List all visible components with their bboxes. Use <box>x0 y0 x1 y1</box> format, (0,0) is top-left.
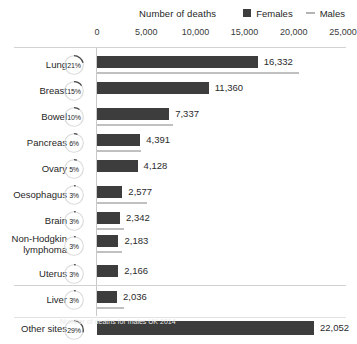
percentage-label: 3% <box>63 184 85 206</box>
bar-females <box>97 134 140 146</box>
chart-row: Bowel10%7,337 <box>0 104 357 130</box>
bar-females <box>97 186 122 198</box>
percentage-label: 5% <box>63 158 85 180</box>
category-label: Pancreas <box>27 138 67 149</box>
percentage-donut: 3% <box>63 184 85 206</box>
x-axis-tick-label: 15,000 <box>231 27 259 37</box>
percentage-label: 21% <box>63 54 85 76</box>
percentage-donut: 3% <box>63 235 85 257</box>
x-axis-tick-label: 0 <box>94 27 99 37</box>
bar-females <box>97 160 138 172</box>
chart-row: Pancreas6%4,391 <box>0 130 357 156</box>
chart-rows: Lung21%16,332Breast15%11,360Bowel10%7,33… <box>0 48 357 318</box>
bar-value-label: 2,036 <box>123 291 147 303</box>
legend-label-females: Females <box>256 8 292 19</box>
category-label: Oesophagus <box>13 190 67 201</box>
chart-row: Other sites29%22,052 <box>0 316 357 344</box>
bar-value-label: 7,337 <box>175 108 199 120</box>
bar-value-label: 22,052 <box>320 322 349 334</box>
bar-value-label: 2,183 <box>124 235 148 247</box>
category-label: Non-Hodgkin lymphoma <box>12 234 67 255</box>
x-axis-ticks: 05,00010,00015,00020,00025,000 <box>0 27 357 41</box>
line-males <box>97 307 124 309</box>
chart-row: Breast15%11,360 <box>0 78 357 104</box>
percentage-label: 3% <box>63 263 85 285</box>
category-label: Other sites <box>21 324 67 335</box>
bar-value-label: 2,342 <box>126 212 150 224</box>
bar-females <box>97 108 169 120</box>
legend-item-females[interactable]: Females <box>243 8 292 19</box>
chart-row: Lung21%16,332 <box>0 52 357 78</box>
percentage-label: 10% <box>63 106 85 128</box>
bar-females <box>97 56 258 68</box>
percentage-label: 3% <box>63 210 85 232</box>
legend-item-males[interactable]: Males <box>306 8 345 19</box>
bar-value-label: 2,166 <box>124 265 148 277</box>
bar-value-label: 4,391 <box>146 134 170 146</box>
line-swatch-icon <box>306 12 315 14</box>
percentage-label: 6% <box>63 132 85 154</box>
percentage-label: 3% <box>63 289 85 311</box>
bar-females <box>97 291 117 303</box>
bar-females <box>97 82 209 94</box>
percentage-donut: 6% <box>63 132 85 154</box>
percentage-donut: 3% <box>63 289 85 311</box>
chart-legend: Females Males <box>230 8 345 19</box>
bar-females <box>97 235 118 247</box>
bar-value-label: 11,360 <box>215 82 243 94</box>
percentage-donut: 5% <box>63 158 85 180</box>
bar-females <box>97 212 120 224</box>
percentage-label: 3% <box>63 235 85 257</box>
line-males <box>97 150 141 152</box>
percentage-donut: 15% <box>63 80 85 102</box>
chart-row: Non-Hodgkin lymphoma3%2,183 <box>0 231 357 261</box>
line-males <box>97 124 173 126</box>
percentage-donut: 3% <box>63 263 85 285</box>
chart-axis-title: Number of deaths <box>139 8 216 19</box>
line-males <box>97 72 299 74</box>
chart-row: Liver3%2,036 <box>0 287 357 313</box>
percentage-donut: 10% <box>63 106 85 128</box>
bar-value-label: 2,577 <box>128 186 152 198</box>
x-axis-tick-label: 25,000 <box>329 27 357 37</box>
x-axis-tick-label: 10,000 <box>182 27 210 37</box>
x-axis-tick-label: 5,000 <box>135 27 158 37</box>
legend-label-males: Males <box>320 8 345 19</box>
bar-females <box>97 265 118 277</box>
chart-row: Ovary5%4,128 <box>0 156 357 182</box>
line-males <box>97 228 124 230</box>
square-swatch-icon <box>243 9 251 17</box>
percentage-donut: 21% <box>63 54 85 76</box>
x-axis-tick-label: 20,000 <box>280 27 308 37</box>
other-sites-separator-rule <box>14 285 346 286</box>
line-males <box>97 202 147 204</box>
chart-row: Oesophagus3%2,577 <box>0 182 357 208</box>
percentage-donut: 3% <box>63 210 85 232</box>
chart-header: Number of deaths Females Males <box>0 5 357 21</box>
chart-caption: Number of deaths for males UK 2014 <box>60 318 176 324</box>
chart-row: Uterus3%2,166 <box>0 261 357 287</box>
percentage-label: 15% <box>63 80 85 102</box>
line-males <box>97 251 122 253</box>
bar-value-label: 4,128 <box>144 160 168 172</box>
bar-value-label: 16,332 <box>264 56 293 68</box>
